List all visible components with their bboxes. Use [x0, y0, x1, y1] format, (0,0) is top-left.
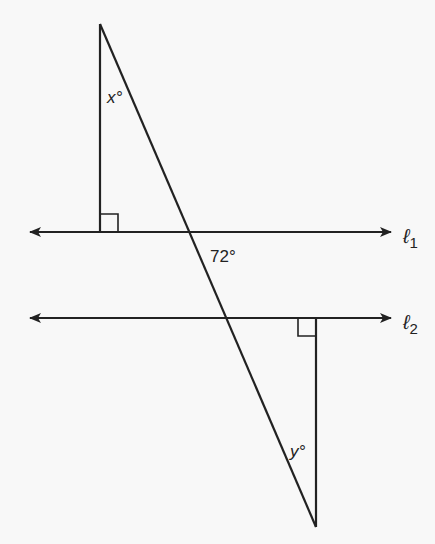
line-l1-label: ℓ1 — [402, 225, 418, 251]
line-l2-subscript: 2 — [409, 320, 417, 337]
angle-72-label: 72° — [210, 247, 236, 266]
transversal — [100, 24, 316, 527]
angle-x-label: x° — [106, 88, 123, 107]
right-angle-mark-bottom — [298, 318, 316, 336]
right-angle-mark-top — [100, 214, 118, 232]
line-l1-subscript: 1 — [409, 234, 417, 251]
diagram-svg: x° 72° y° ℓ1 ℓ2 — [0, 0, 435, 544]
line-l2-label: ℓ2 — [402, 311, 418, 337]
geometry-diagram: x° 72° y° ℓ1 ℓ2 — [0, 0, 435, 544]
angle-y-label: y° — [289, 442, 306, 461]
